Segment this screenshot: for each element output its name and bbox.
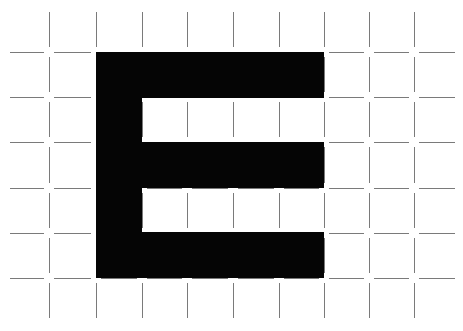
- grid-line-vertical: [414, 12, 415, 47]
- grid-line-horizontal: [374, 52, 409, 53]
- grid-line-horizontal: [329, 278, 364, 279]
- grid-line-vertical: [414, 193, 415, 228]
- grid-line-vertical: [369, 12, 370, 47]
- grid-line-horizontal: [54, 278, 91, 279]
- grid-line-horizontal: [147, 188, 182, 189]
- grid-line-vertical: [369, 193, 370, 228]
- grid-line-vertical: [324, 283, 325, 318]
- grid-line-vertical: [233, 283, 234, 318]
- grid-line-vertical: [233, 193, 234, 228]
- grid-line-horizontal: [10, 278, 44, 279]
- grid-line-horizontal: [192, 188, 228, 189]
- grid-line-horizontal: [419, 142, 455, 143]
- grid-line-vertical: [414, 147, 415, 183]
- grid-line-vertical: [324, 57, 325, 92]
- grid-line-horizontal: [54, 188, 91, 189]
- grid-line-vertical: [142, 102, 143, 137]
- grid-line-horizontal: [329, 97, 364, 98]
- letter-e-bottom-bar: [96, 232, 324, 278]
- grid-line-horizontal: [374, 97, 409, 98]
- grid-line-vertical: [324, 238, 325, 273]
- grid-line-horizontal: [101, 278, 137, 279]
- grid-line-vertical: [187, 283, 188, 318]
- grid-line-vertical: [414, 57, 415, 92]
- grid-line-horizontal: [54, 52, 91, 53]
- grid-line-vertical: [369, 283, 370, 318]
- grid-line-horizontal: [54, 142, 91, 143]
- grid-line-vertical: [233, 12, 234, 47]
- grid-line-horizontal: [374, 233, 409, 234]
- grid-line-vertical: [369, 102, 370, 137]
- grid-line-vertical: [49, 102, 50, 137]
- grid-line-vertical: [142, 283, 143, 318]
- grid-line-horizontal: [192, 278, 228, 279]
- letter-grid-figure: [0, 0, 463, 331]
- letter-e-top-bar: [96, 52, 324, 98]
- grid-line-vertical: [279, 102, 280, 137]
- grid-line-horizontal: [329, 233, 364, 234]
- grid-line-vertical: [279, 283, 280, 318]
- grid-line-vertical: [369, 147, 370, 183]
- grid-line-vertical: [49, 283, 50, 318]
- grid-line-horizontal: [284, 188, 319, 189]
- grid-line-vertical: [187, 12, 188, 47]
- grid-line-horizontal: [329, 188, 364, 189]
- grid-line-horizontal: [10, 233, 44, 234]
- grid-line-horizontal: [419, 97, 455, 98]
- grid-line-horizontal: [10, 142, 44, 143]
- grid-line-horizontal: [419, 278, 455, 279]
- grid-line-vertical: [187, 193, 188, 228]
- grid-line-horizontal: [10, 188, 44, 189]
- grid-line-vertical: [49, 147, 50, 183]
- grid-line-vertical: [369, 57, 370, 92]
- grid-line-horizontal: [284, 278, 319, 279]
- grid-line-vertical: [49, 193, 50, 228]
- grid-line-vertical: [324, 102, 325, 137]
- grid-line-vertical: [414, 283, 415, 318]
- grid-line-vertical: [233, 102, 234, 137]
- grid-line-vertical: [324, 193, 325, 228]
- grid-line-horizontal: [238, 188, 274, 189]
- grid-line-vertical: [96, 12, 97, 47]
- grid-line-horizontal: [54, 97, 91, 98]
- grid-line-horizontal: [147, 278, 182, 279]
- grid-line-horizontal: [419, 233, 455, 234]
- grid-line-horizontal: [238, 278, 274, 279]
- grid-line-horizontal: [374, 142, 409, 143]
- grid-line-horizontal: [10, 52, 44, 53]
- grid-line-vertical: [279, 193, 280, 228]
- grid-line-vertical: [369, 238, 370, 273]
- grid-line-horizontal: [329, 142, 364, 143]
- grid-line-vertical: [279, 12, 280, 47]
- grid-line-vertical: [49, 12, 50, 47]
- grid-line-vertical: [324, 147, 325, 183]
- grid-line-horizontal: [54, 233, 91, 234]
- grid-line-vertical: [142, 193, 143, 228]
- grid-line-horizontal: [374, 188, 409, 189]
- grid-line-horizontal: [10, 97, 44, 98]
- grid-line-horizontal: [419, 52, 455, 53]
- grid-line-vertical: [414, 102, 415, 137]
- grid-line-vertical: [96, 283, 97, 318]
- grid-line-vertical: [414, 238, 415, 273]
- grid-line-horizontal: [329, 52, 364, 53]
- grid-line-horizontal: [374, 278, 409, 279]
- grid-line-vertical: [324, 12, 325, 47]
- letter-e-middle-bar: [96, 142, 324, 188]
- grid-line-vertical: [187, 102, 188, 137]
- grid-line-vertical: [49, 238, 50, 273]
- grid-line-horizontal: [419, 188, 455, 189]
- grid-line-vertical: [142, 12, 143, 47]
- grid-line-vertical: [49, 57, 50, 92]
